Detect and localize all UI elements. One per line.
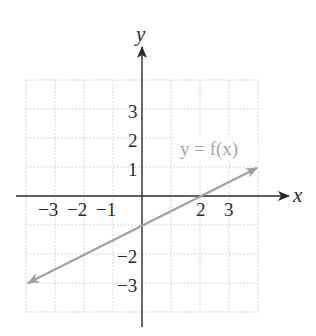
x-tick-label: −3 xyxy=(38,199,58,220)
y-tick-label: −3 xyxy=(117,275,137,296)
y-tick-label: 2 xyxy=(128,130,138,151)
x-tick-label: 2 xyxy=(196,199,206,220)
x-axis-label: x xyxy=(292,183,303,207)
x-tick-label: −1 xyxy=(96,199,116,220)
x-tick-label: −2 xyxy=(67,199,87,220)
y-axis-label: y xyxy=(134,22,146,46)
x-tick-label: 3 xyxy=(224,199,234,220)
function-label: y = f(x) xyxy=(180,138,238,160)
coordinate-plane: x y y = f(x) −3 −2 −1 2 3 3 2 1 −2 −3 xyxy=(0,0,316,336)
y-tick-label: 1 xyxy=(128,159,138,180)
y-tick-label: 3 xyxy=(128,101,138,122)
y-tick-label: −2 xyxy=(117,246,137,267)
